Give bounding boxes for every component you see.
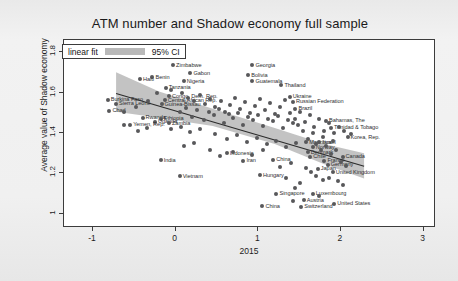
scatter-point xyxy=(303,120,307,124)
scatter-point xyxy=(281,126,285,130)
scatter-point xyxy=(164,86,168,90)
scatter-point xyxy=(228,103,232,107)
scatter-point xyxy=(122,110,126,114)
scatter-point xyxy=(294,141,298,145)
scatter-point xyxy=(202,118,206,122)
scatter-point xyxy=(327,121,331,125)
scatter-point xyxy=(188,71,192,75)
scatter-point xyxy=(306,137,310,141)
scatter-point xyxy=(218,154,222,158)
y-tick-mark xyxy=(59,132,63,133)
scatter-point xyxy=(178,110,182,114)
scatter-point xyxy=(231,116,235,120)
scatter-point xyxy=(246,73,250,77)
scatter-point xyxy=(169,127,173,131)
y-tick-mark xyxy=(59,172,63,173)
scatter-point xyxy=(293,186,297,190)
scatter-point xyxy=(329,152,333,156)
scatter-point xyxy=(296,123,300,127)
scatter-point xyxy=(301,129,305,133)
scatter-point xyxy=(279,83,283,87)
scatter-point-label: Thailand xyxy=(284,82,305,88)
scatter-point-label: Iran xyxy=(246,157,255,163)
scatter-point xyxy=(255,136,259,140)
legend-linear-fit-label: linear fit xyxy=(68,47,98,57)
scatter-points-layer: ZimbabweGeorgiaBeninGabonBoliviaNigeriaG… xyxy=(64,40,434,226)
scatter-point xyxy=(128,123,132,127)
x-tick-label: 0 xyxy=(163,233,187,243)
scatter-point-label: Bahamas, The xyxy=(329,117,365,123)
scatter-point xyxy=(346,135,350,139)
scatter-point xyxy=(278,165,282,169)
scatter-point xyxy=(203,102,207,106)
chart-title: ATM number and Shadow economy full sampl… xyxy=(14,16,446,31)
scatter-point-label: Korea, Rep. xyxy=(351,134,380,140)
scatter-point xyxy=(250,63,254,67)
scatter-point-label: Guatemala xyxy=(255,78,282,84)
scatter-point xyxy=(122,123,126,127)
scatter-point xyxy=(208,148,212,152)
scatter-point xyxy=(342,129,346,133)
scatter-point xyxy=(213,132,217,136)
scatter-point xyxy=(316,167,320,171)
scatter-point xyxy=(288,111,292,115)
scatter-point xyxy=(268,101,272,105)
y-tick-label: 1.2 xyxy=(48,161,57,183)
scatter-point xyxy=(246,115,250,119)
scatter-point-label: Russian Federation xyxy=(296,98,344,104)
legend-ci-swatch xyxy=(105,48,145,55)
scatter-point xyxy=(184,106,188,110)
scatter-point xyxy=(265,142,269,146)
scatter-point xyxy=(188,130,192,134)
plot-area: ZimbabweGeorgiaBeninGabonBoliviaNigeriaG… xyxy=(63,39,435,227)
chart-figure: ATM number and Shadow economy full sampl… xyxy=(14,6,446,264)
scatter-point xyxy=(274,139,278,143)
scatter-point xyxy=(261,148,265,152)
x-tick-mark xyxy=(257,227,258,231)
scatter-point xyxy=(288,95,292,99)
scatter-point xyxy=(245,140,249,144)
scatter-point xyxy=(339,160,343,164)
scatter-point xyxy=(302,198,306,202)
scatter-point xyxy=(180,91,184,95)
scatter-point xyxy=(160,102,164,106)
scatter-point xyxy=(319,148,323,152)
scatter-point xyxy=(276,114,280,118)
scatter-point xyxy=(291,199,295,203)
scatter-point xyxy=(309,170,313,174)
scatter-point xyxy=(298,181,302,185)
scatter-point xyxy=(106,98,110,102)
x-tick-label: 1 xyxy=(245,233,269,243)
x-tick-label: 2 xyxy=(328,233,352,243)
scatter-point-label: Switzerland xyxy=(304,203,332,209)
y-tick-mark xyxy=(59,92,63,93)
scatter-point xyxy=(344,164,348,168)
scatter-point xyxy=(331,170,335,174)
scatter-point xyxy=(222,121,226,125)
scatter-point-label: United States xyxy=(337,200,370,206)
scatter-point xyxy=(179,125,183,129)
scatter-point xyxy=(311,131,315,135)
scatter-point xyxy=(278,105,282,109)
scatter-point xyxy=(253,104,257,108)
y-tick-mark xyxy=(59,213,63,214)
scatter-point xyxy=(299,205,303,209)
y-tick-label: 1.8 xyxy=(48,40,57,62)
x-tick-mark xyxy=(92,227,93,231)
scatter-point xyxy=(291,100,295,104)
scatter-point-label: Haiti xyxy=(143,76,154,82)
scatter-point xyxy=(167,121,171,125)
scatter-point xyxy=(293,117,297,121)
scatter-point xyxy=(145,126,149,130)
scatter-point xyxy=(238,107,242,111)
scatter-point xyxy=(227,112,231,116)
scatter-point xyxy=(308,155,312,159)
scatter-point xyxy=(293,107,297,111)
scatter-point xyxy=(195,108,199,112)
scatter-point xyxy=(258,173,262,177)
scatter-point xyxy=(317,117,321,121)
scatter-point xyxy=(266,117,270,121)
scatter-point xyxy=(261,124,265,128)
scatter-point xyxy=(212,113,216,117)
scatter-point xyxy=(298,110,302,114)
